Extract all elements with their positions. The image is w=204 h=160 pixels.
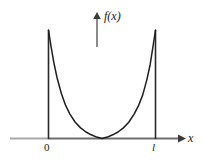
plot-canvas xyxy=(0,0,204,160)
tick-label-length: l xyxy=(152,142,155,153)
f-of-x-axis-label: f(x) xyxy=(104,10,121,22)
figure-container: f(x) x 0 l xyxy=(0,0,204,160)
x-axis-label: x xyxy=(188,132,193,144)
potential-well-curve xyxy=(49,30,156,139)
x-axis-arrow-icon xyxy=(178,135,186,143)
tick-label-origin: 0 xyxy=(44,142,50,153)
f-axis-arrow-icon xyxy=(93,12,101,19)
